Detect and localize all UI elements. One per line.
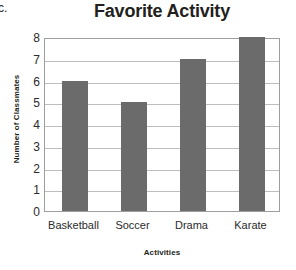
bar — [121, 102, 147, 211]
y-tick-label: 7 — [22, 54, 40, 66]
y-tick-label: 6 — [22, 76, 40, 88]
y-tick-label: 2 — [22, 163, 40, 175]
y-tick-label: 8 — [22, 32, 40, 44]
y-axis-title: Number of Classmates — [12, 59, 22, 179]
chart-title: Favorite Activity — [44, 0, 280, 22]
x-tick-label: Soccer — [103, 218, 162, 232]
plot-area — [44, 38, 280, 212]
y-tick-label: 3 — [22, 141, 40, 153]
x-axis-title: Activities — [44, 248, 280, 258]
bars-layer — [45, 39, 279, 211]
x-axis-tick-labels: BasketballSoccerDramaKarate — [44, 218, 280, 234]
y-tick-label: 4 — [22, 119, 40, 131]
bar — [180, 59, 206, 211]
y-tick-label: 1 — [22, 184, 40, 196]
y-axis-tick-labels: 012345678 — [22, 38, 40, 212]
x-tick-label: Karate — [221, 218, 280, 232]
bar — [62, 81, 88, 212]
x-tick-label: Drama — [162, 218, 221, 232]
bar — [239, 37, 265, 211]
x-tick-label: Basketball — [44, 218, 103, 232]
question-label: c. — [0, 1, 7, 15]
y-tick-label: 0 — [22, 206, 40, 218]
y-tick-label: 5 — [22, 97, 40, 109]
